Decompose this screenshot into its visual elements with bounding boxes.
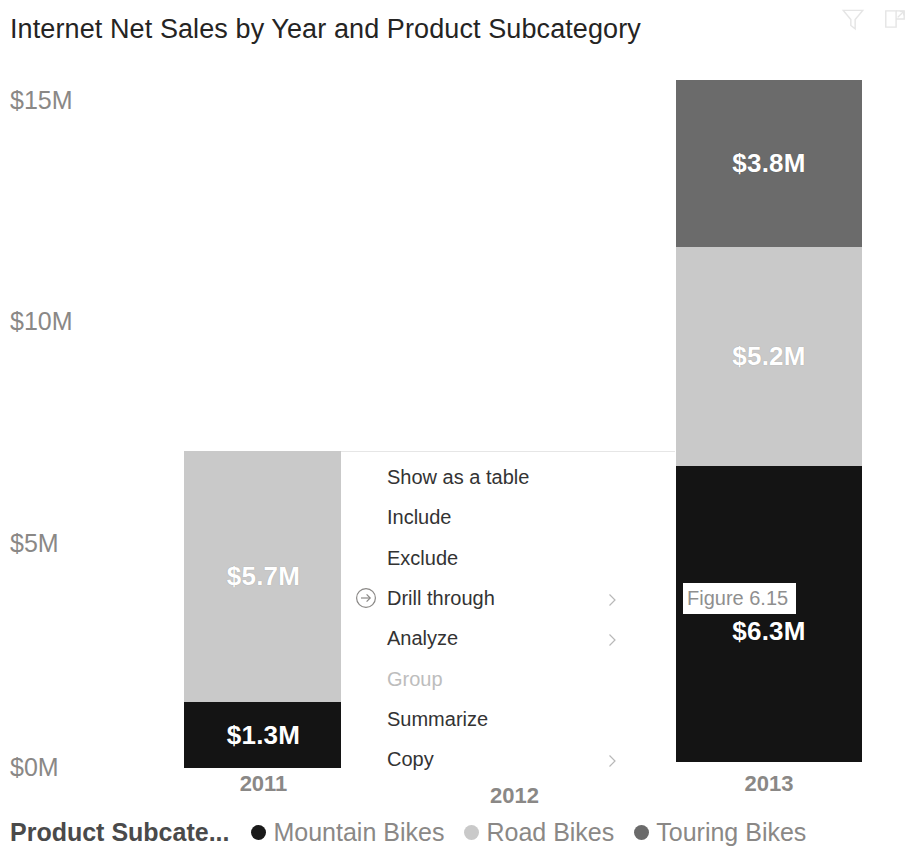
powerbi-visual-screenshot: Internet Net Sales by Year and Product S… xyxy=(0,0,918,850)
chevron-right-icon xyxy=(604,590,620,606)
bar-segment-2013-road-bikes[interactable]: $5.2M xyxy=(676,247,862,466)
bar-segment-label: $5.2M xyxy=(732,341,805,372)
context-menu-item-label: Exclude xyxy=(387,547,458,570)
x-axis-tick-2013: 2013 xyxy=(676,771,862,797)
y-axis-tick-10m: $10M xyxy=(10,307,73,336)
context-menu-item-label: Drill through xyxy=(387,587,495,610)
context-menu-item-label: Analyze xyxy=(387,627,458,650)
context-menu-item-label: Copy xyxy=(387,748,434,771)
bar-segment-label: $6.3M xyxy=(676,616,862,647)
bar-segment-2011-road-bikes[interactable]: $5.7M xyxy=(184,451,343,702)
legend-swatch-icon xyxy=(464,825,479,840)
context-menu-item-show-as-a-table[interactable]: Show as a table xyxy=(341,457,675,497)
x-axis-tick-2011: 2011 xyxy=(184,771,343,797)
legend-title: Product Subcate... xyxy=(10,818,229,847)
context-menu: Show as a table Include Exclude Drill th… xyxy=(341,451,675,782)
drill-through-icon xyxy=(354,586,378,610)
context-menu-item-summarize[interactable]: Summarize xyxy=(341,699,675,739)
bar-segment-2013-touring-bikes[interactable]: $3.8M xyxy=(676,80,862,247)
bar-segment-label: $3.8M xyxy=(732,148,805,179)
bar-column-2011[interactable]: $5.7M $1.3M xyxy=(184,451,343,768)
bar-segment-label: $1.3M xyxy=(227,720,300,751)
context-menu-item-exclude[interactable]: Exclude xyxy=(341,538,675,578)
legend-item-label: Mountain Bikes xyxy=(273,818,444,847)
bar-segment-label: $5.7M xyxy=(227,561,300,592)
legend-swatch-icon xyxy=(251,825,266,840)
bar-segment-2013-mountain-bikes[interactable]: $6.3M xyxy=(676,466,862,762)
legend-item-label: Road Bikes xyxy=(486,818,614,847)
context-menu-item-label: Include xyxy=(387,506,452,529)
context-menu-item-group: Group xyxy=(341,659,675,699)
y-axis-tick-0m: $0M xyxy=(10,753,59,782)
context-menu-item-label: Summarize xyxy=(387,708,488,731)
legend-swatch-icon xyxy=(634,825,649,840)
bar-column-2013[interactable]: $3.8M $5.2M $6.3M xyxy=(676,80,862,762)
context-menu-item-label: Group xyxy=(387,668,443,691)
chart-legend: Product Subcate... Mountain Bikes Road B… xyxy=(10,818,826,847)
context-menu-item-include[interactable]: Include xyxy=(341,497,675,537)
x-axis-tick-2012: 2012 xyxy=(435,783,594,809)
context-menu-item-copy[interactable]: Copy xyxy=(341,739,675,779)
legend-item-label: Touring Bikes xyxy=(656,818,806,847)
chevron-right-icon xyxy=(604,751,620,767)
legend-item-road-bikes[interactable]: Road Bikes xyxy=(464,818,614,847)
y-axis-tick-15m: $15M xyxy=(10,86,73,115)
chevron-right-icon xyxy=(604,630,620,646)
legend-item-mountain-bikes[interactable]: Mountain Bikes xyxy=(251,818,444,847)
context-menu-item-drill-through[interactable]: Drill through xyxy=(341,578,675,618)
context-menu-item-label: Show as a table xyxy=(387,466,529,489)
y-axis-tick-5m: $5M xyxy=(10,529,59,558)
legend-item-touring-bikes[interactable]: Touring Bikes xyxy=(634,818,806,847)
bar-segment-2011-mountain-bikes[interactable]: $1.3M xyxy=(184,702,343,768)
context-menu-item-analyze[interactable]: Analyze xyxy=(341,618,675,658)
figure-caption: Figure 6.15 xyxy=(683,583,796,614)
